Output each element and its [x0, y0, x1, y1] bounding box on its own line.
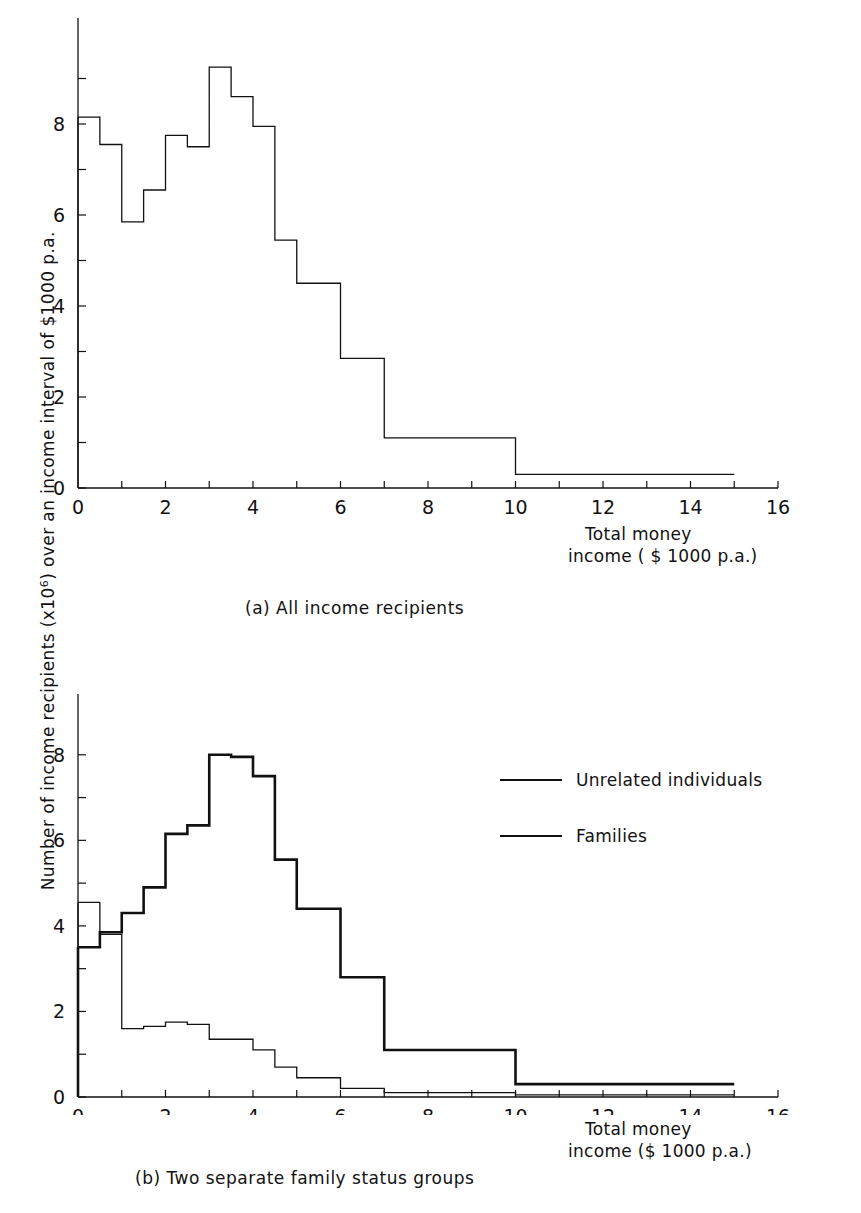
x-axis-tick-label: 14 [678, 496, 702, 518]
x-axis-tick-label: 16 [766, 1105, 790, 1115]
y-axis-tick-label: 6 [53, 829, 65, 851]
x-axis-tick-label: 2 [159, 496, 171, 518]
chart-a-plot: 024681012141602468 [40, 18, 830, 518]
y-axis-tick-label: 8 [53, 113, 65, 135]
y-axis-tick-label: 0 [53, 1086, 65, 1108]
x-axis-tick-label: 2 [159, 1105, 171, 1115]
panel-b: 024681012141602468 [40, 690, 830, 1115]
y-axis-tick-label: 6 [53, 204, 65, 226]
chart-b-caption: (b) Two separate family status groups [135, 1168, 474, 1188]
chart-b-x-axis-title-line1: Total money [585, 1118, 752, 1140]
x-axis-tick-label: 0 [72, 1105, 84, 1115]
x-axis-tick-label: 16 [766, 496, 790, 518]
chart-a-x-axis-title: Total money income ( $ 1000 p.a.) [585, 523, 758, 567]
y-axis-tick-label: 0 [53, 477, 65, 499]
chart-a-x-axis-title-line2: income ( $ 1000 p.a.) [568, 545, 758, 567]
chart-b-x-axis-title-line2: income ($ 1000 p.a.) [568, 1140, 752, 1162]
chart-a-caption: (a) All income recipients [245, 598, 464, 618]
chart-a-x-axis-title-line1: Total money [585, 523, 758, 545]
legend-swatch-thick-line [500, 835, 562, 838]
legend-item-unrelated-individuals: Unrelated individuals [500, 765, 762, 795]
chart-b-x-axis-title: Total money income ($ 1000 p.a.) [585, 1118, 752, 1162]
panel-a: 024681012141602468 [40, 18, 830, 518]
x-axis-tick-label: 6 [334, 1105, 346, 1115]
x-axis-tick-label: 6 [334, 496, 346, 518]
y-axis-label-exponent: 6 [38, 580, 51, 587]
chart-b-plot: 024681012141602468 [40, 690, 830, 1115]
x-axis-tick-label: 8 [422, 1105, 434, 1115]
legend-swatch-thin-line [500, 779, 562, 780]
figure-page: Number of income recipients (x106) over … [0, 0, 861, 1213]
series-step-line-all-income-recipients [78, 67, 734, 474]
series-step-line-unrelated-individuals [78, 902, 734, 1095]
legend-item-families: Families [500, 821, 762, 851]
x-axis-tick-label: 8 [422, 496, 434, 518]
x-axis-tick-label: 14 [678, 1105, 702, 1115]
x-axis-tick-label: 12 [591, 1105, 615, 1115]
y-axis-tick-label: 4 [53, 915, 65, 937]
x-axis-tick-label: 10 [503, 496, 527, 518]
y-axis-tick-label: 4 [53, 295, 65, 317]
x-axis-tick-label: 10 [503, 1105, 527, 1115]
legend-label-families: Families [576, 826, 647, 846]
y-axis-tick-label: 2 [53, 1000, 65, 1022]
y-axis-tick-label: 2 [53, 386, 65, 408]
x-axis-tick-label: 4 [247, 1105, 259, 1115]
x-axis-tick-label: 12 [591, 496, 615, 518]
x-axis-tick-label: 0 [72, 496, 84, 518]
chart-b-legend: Unrelated individuals Families [500, 765, 762, 851]
x-axis-tick-label: 4 [247, 496, 259, 518]
legend-label-unrelated-individuals: Unrelated individuals [576, 770, 762, 790]
y-axis-tick-label: 8 [53, 744, 65, 766]
